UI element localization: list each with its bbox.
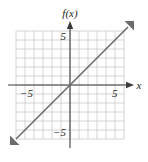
x-axis-arrowhead	[126, 82, 134, 88]
graph-figure: −5 5 5 −5 f(x) x	[0, 0, 148, 162]
x-tick-label-negative-5: −5	[20, 87, 33, 99]
y-axis-arrowhead	[67, 21, 73, 29]
y-tick-label-positive-5: 5	[61, 30, 67, 42]
y-tick-label-negative-5: −5	[53, 126, 66, 138]
x-tick-label-positive-5: 5	[112, 87, 118, 99]
x-axis-label: x	[136, 79, 142, 91]
coordinate-plane-svg: −5 5 5 −5 f(x) x	[0, 0, 148, 162]
y-axis-label: f(x)	[62, 7, 78, 20]
